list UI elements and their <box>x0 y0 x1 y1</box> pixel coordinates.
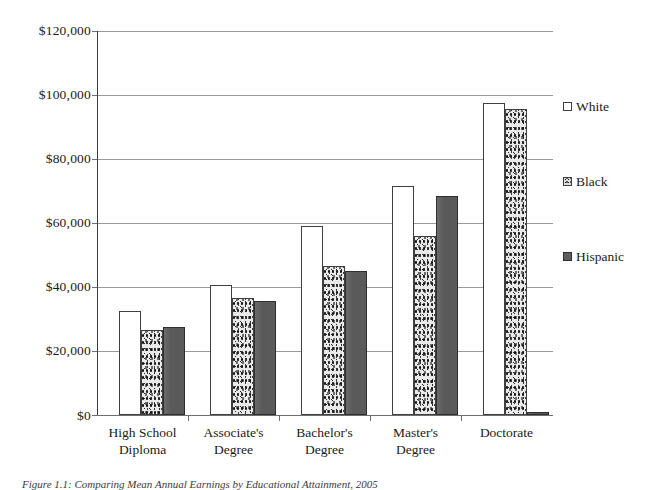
bar-white <box>210 285 232 415</box>
legend-swatch-black-icon <box>563 177 572 186</box>
x-axis-tick-mark <box>461 415 462 421</box>
y-axis-tick-label: $80,000 <box>5 152 91 166</box>
bar-white <box>119 311 141 415</box>
legend-label-white: White <box>576 100 609 114</box>
bar-group <box>119 31 188 415</box>
x-axis-tick-mark <box>188 415 189 421</box>
bar-hispanic <box>345 271 367 415</box>
bar-hispanic <box>163 327 185 415</box>
x-axis-line <box>97 415 553 416</box>
bar-white <box>483 103 505 415</box>
bar-group <box>301 31 370 415</box>
y-axis-tick-label: $100,000 <box>5 88 91 102</box>
figure-caption: Figure 1.1: Comparing Mean Annual Earnin… <box>22 478 378 490</box>
legend-item-hispanic: Hispanic <box>563 250 624 264</box>
bar-black <box>414 236 436 415</box>
x-axis-tick-mark <box>370 415 371 421</box>
bar-hispanic <box>254 301 276 415</box>
legend-swatch-white-icon <box>563 102 572 111</box>
y-axis-line <box>97 31 98 416</box>
y-axis-tick-label: $0 <box>5 409 91 423</box>
bar-hispanic <box>436 196 458 415</box>
x-axis-label-bachelors: Bachelor's Degree <box>279 424 370 458</box>
bar-group <box>483 31 552 415</box>
bar-group <box>210 31 279 415</box>
y-axis-tick-label: $60,000 <box>5 216 91 230</box>
bar-white <box>392 186 414 415</box>
bar-black <box>323 266 345 415</box>
plot-area <box>97 31 553 415</box>
bar-black <box>141 330 163 415</box>
x-axis-label-high-school: High School Diploma <box>97 424 188 458</box>
y-axis-tick-label: $20,000 <box>5 344 91 358</box>
x-axis-label-masters: Master's Degree <box>370 424 461 458</box>
y-axis-tick-label: $120,000 <box>5 24 91 38</box>
x-axis-tick-mark <box>279 415 280 421</box>
bar-group <box>392 31 461 415</box>
chart-container: $120,000 $100,000 $80,000 $60,000 $40,00… <box>0 0 655 490</box>
y-axis-tick-label: $40,000 <box>5 280 91 294</box>
legend-label-hispanic: Hispanic <box>576 250 624 264</box>
legend-label-black: Black <box>576 175 608 189</box>
legend-item-black: Black <box>563 175 608 189</box>
legend-swatch-hispanic-icon <box>563 252 572 261</box>
y-axis-labels: $120,000 $100,000 $80,000 $60,000 $40,00… <box>0 0 91 490</box>
x-axis-label-doctorate: Doctorate <box>461 424 552 441</box>
x-axis-label-associates: Associate's Degree <box>188 424 279 458</box>
bar-black <box>232 298 254 415</box>
legend-item-white: White <box>563 100 609 114</box>
bar-black <box>505 109 527 415</box>
bar-white <box>301 226 323 415</box>
